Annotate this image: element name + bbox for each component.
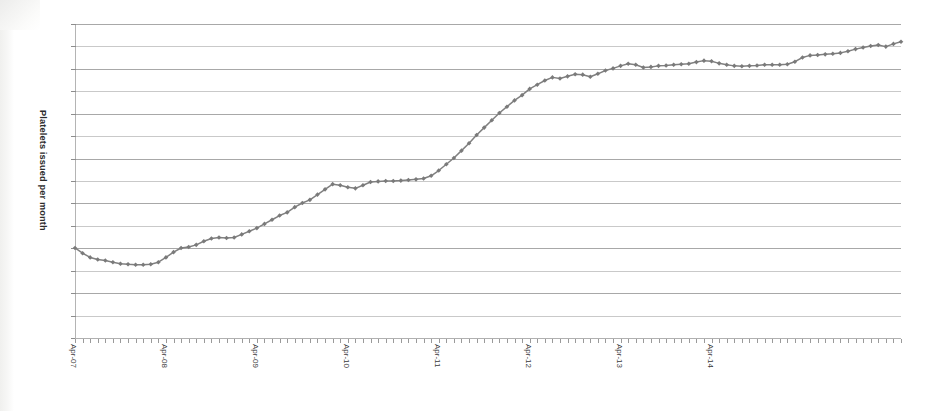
x-axis-tick xyxy=(439,339,440,343)
x-axis-label: Apr-12 xyxy=(523,344,534,404)
x-axis-tick xyxy=(371,339,372,343)
x-axis-tick xyxy=(810,339,811,343)
y-axis-tick xyxy=(71,91,76,92)
x-axis-tick xyxy=(416,339,417,343)
gridline xyxy=(75,46,901,47)
x-axis-tick xyxy=(522,339,523,343)
y-axis-tick xyxy=(71,226,76,227)
x-axis-tick xyxy=(461,339,462,343)
x-axis-tick xyxy=(659,339,660,343)
x-axis-tick xyxy=(492,339,493,343)
x-axis-tick xyxy=(310,339,311,343)
x-axis-label: Apr-08 xyxy=(159,344,170,404)
gridline xyxy=(75,248,901,249)
x-axis-tick xyxy=(431,339,432,343)
plot-area xyxy=(75,24,901,338)
x-axis-label: Apr-10 xyxy=(341,344,352,404)
x-axis-label: Apr-13 xyxy=(614,344,625,404)
x-axis-tick xyxy=(181,339,182,343)
x-axis-tick xyxy=(83,339,84,343)
x-axis-tick xyxy=(363,339,364,343)
x-axis-tick xyxy=(204,339,205,343)
x-axis-tick xyxy=(219,339,220,343)
x-axis-tick xyxy=(651,339,652,343)
x-axis-tick xyxy=(765,339,766,343)
gridline xyxy=(75,316,901,317)
x-axis-tick xyxy=(325,339,326,343)
x-axis-tick xyxy=(280,339,281,343)
x-axis-tick xyxy=(795,339,796,343)
gridline xyxy=(75,293,901,294)
x-axis-tick xyxy=(98,339,99,343)
x-axis-tick xyxy=(257,339,258,343)
x-axis-tick xyxy=(871,339,872,343)
x-axis-tick xyxy=(636,339,637,343)
x-axis-tick xyxy=(575,339,576,343)
x-axis xyxy=(75,338,901,339)
page-edge-shadow xyxy=(0,0,14,411)
x-axis-tick xyxy=(386,339,387,343)
y-axis-tick xyxy=(71,24,76,25)
x-axis-tick xyxy=(802,339,803,343)
x-axis-tick xyxy=(818,339,819,343)
y-axis-tick xyxy=(71,316,76,317)
x-axis-tick xyxy=(287,339,288,343)
x-axis-tick xyxy=(893,339,894,343)
gridline xyxy=(75,226,901,227)
x-axis-tick xyxy=(643,339,644,343)
x-axis-tick xyxy=(166,339,167,343)
x-axis-tick xyxy=(704,339,705,343)
x-axis-tick xyxy=(75,339,76,343)
page-corner-shadow xyxy=(0,0,40,30)
x-axis-tick xyxy=(560,339,561,343)
x-axis-tick xyxy=(234,339,235,343)
x-axis-tick xyxy=(424,339,425,343)
y-axis-tick xyxy=(71,293,76,294)
x-axis-tick xyxy=(780,339,781,343)
x-axis-tick xyxy=(696,339,697,343)
x-axis-tick xyxy=(833,339,834,343)
x-axis-tick xyxy=(454,339,455,343)
y-axis-tick xyxy=(71,46,76,47)
x-axis-tick xyxy=(264,339,265,343)
x-axis-tick xyxy=(340,339,341,343)
x-axis-tick xyxy=(772,339,773,343)
x-axis-tick xyxy=(408,339,409,343)
x-axis-tick xyxy=(158,339,159,343)
x-axis-tick xyxy=(136,339,137,343)
x-axis-tick xyxy=(840,339,841,343)
x-axis-tick xyxy=(598,339,599,343)
x-axis-tick xyxy=(120,339,121,343)
x-axis-label: Apr-07 xyxy=(68,344,79,404)
x-axis-tick xyxy=(105,339,106,343)
y-axis-tick xyxy=(71,159,76,160)
x-axis-tick xyxy=(272,339,273,343)
x-axis-tick xyxy=(787,339,788,343)
x-axis-tick xyxy=(189,339,190,343)
x-axis-tick xyxy=(583,339,584,343)
x-axis-tick xyxy=(393,339,394,343)
x-axis-tick xyxy=(734,339,735,343)
x-axis-tick xyxy=(317,339,318,343)
x-axis-tick xyxy=(378,339,379,343)
x-axis-tick xyxy=(719,339,720,343)
x-axis-tick xyxy=(757,339,758,343)
x-axis-tick xyxy=(537,339,538,343)
y-axis-tick xyxy=(71,248,76,249)
x-axis-tick xyxy=(242,339,243,343)
x-axis-tick xyxy=(333,339,334,343)
x-axis-tick xyxy=(878,339,879,343)
x-axis-tick xyxy=(174,339,175,343)
x-axis-tick xyxy=(825,339,826,343)
y-axis-tick xyxy=(71,181,76,182)
gridline xyxy=(75,114,901,115)
gridline xyxy=(75,69,901,70)
x-axis-tick xyxy=(530,339,531,343)
y-axis-tick xyxy=(71,114,76,115)
x-axis-tick xyxy=(355,339,356,343)
x-axis-tick xyxy=(469,339,470,343)
x-axis-tick xyxy=(901,339,902,343)
x-axis-tick xyxy=(886,339,887,343)
x-axis-tick xyxy=(590,339,591,343)
gridline xyxy=(75,159,901,160)
